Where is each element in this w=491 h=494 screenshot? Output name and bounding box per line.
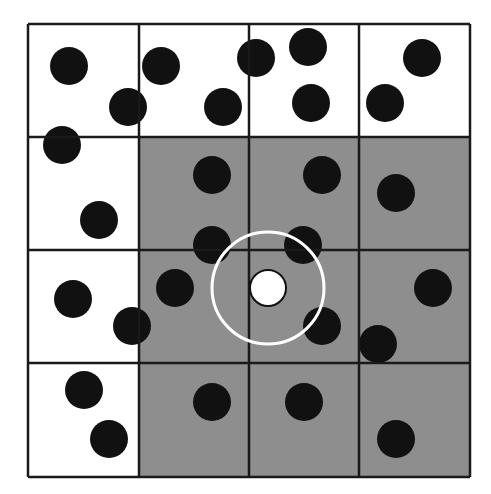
data-point	[43, 126, 81, 164]
data-point	[377, 420, 415, 458]
data-point	[414, 269, 452, 307]
grid-diagram	[0, 0, 491, 494]
data-point	[142, 47, 180, 85]
data-point	[303, 156, 341, 194]
data-point	[193, 383, 231, 421]
data-point	[359, 325, 397, 363]
data-point	[377, 174, 415, 212]
shaded-cell	[359, 363, 470, 477]
data-point	[80, 201, 118, 239]
data-point	[204, 88, 242, 126]
data-point	[50, 47, 88, 85]
shaded-cell	[139, 250, 249, 363]
data-point	[90, 420, 128, 458]
data-point	[65, 371, 103, 409]
query-point	[250, 270, 286, 306]
shaded-cell	[139, 363, 249, 477]
data-point	[193, 156, 231, 194]
shaded-cell	[139, 137, 249, 250]
data-point	[109, 88, 147, 126]
data-point	[289, 28, 327, 66]
data-point	[54, 280, 92, 318]
data-point	[366, 84, 404, 122]
data-point	[237, 39, 275, 77]
data-point	[292, 84, 330, 122]
data-point	[403, 39, 441, 77]
data-point	[113, 307, 151, 345]
data-point	[193, 226, 231, 264]
data-point	[156, 269, 194, 307]
data-point	[285, 383, 323, 421]
